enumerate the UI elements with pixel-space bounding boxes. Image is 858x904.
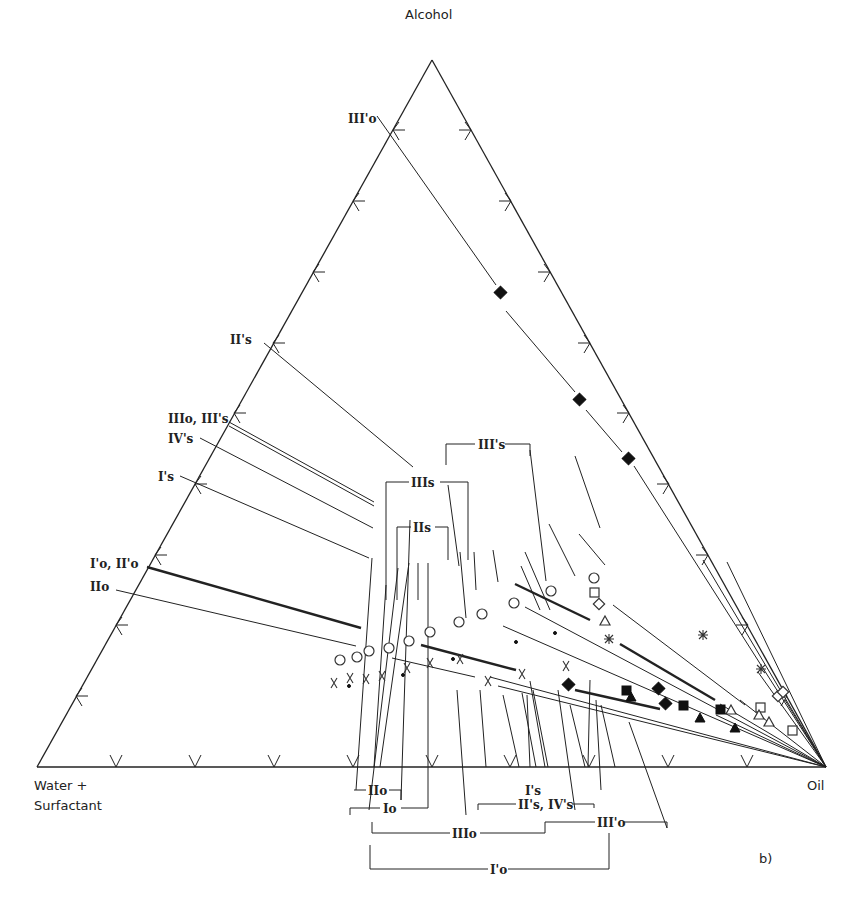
vertex-label-water-line1: Water +: [34, 777, 87, 795]
label-III-prime-o-left: III'o: [348, 112, 377, 126]
label-III-o: IIIo: [452, 827, 477, 841]
panel-label: b): [759, 850, 772, 868]
label-II-o-left: IIo: [90, 580, 109, 594]
markers-open-circle: [335, 573, 599, 665]
vertex-label-oil: Oil: [807, 777, 824, 795]
label-I-o: Io: [383, 802, 397, 816]
markers-dot: [348, 632, 557, 688]
tie-lines-left: [116, 116, 826, 767]
label-I-prime-s-left: I's: [158, 470, 174, 484]
ternary-phase-diagram: III's IIIs IIs IIo Io I's II's, IV's III…: [0, 0, 858, 904]
label-III-s: IIIs: [411, 476, 435, 490]
vertex-label-water-line2: Surfactant: [34, 797, 102, 815]
vertex-label-alcohol: Alcohol: [405, 6, 452, 24]
label-I-prime-s: I's: [525, 784, 541, 798]
label-II-prime-s-left: II's: [230, 333, 252, 347]
label-I-prime-o: I'o: [490, 863, 507, 877]
tie-lines-vertical: [356, 450, 667, 828]
markers-asterisk: [604, 630, 766, 674]
markers-filled-diamond: [494, 286, 672, 710]
label-II-prime-s-IV-prime-s: II's, IV's: [518, 798, 574, 812]
label-II-o: IIo: [368, 784, 387, 798]
label-IIIo-III-prime-s-left: IIIo, III's: [168, 412, 229, 426]
label-III-prime-s: III's: [478, 438, 506, 452]
label-IV-prime-s-left: IV's: [168, 432, 194, 446]
markers-open-square: [590, 588, 797, 735]
left-line-labels: III'o II's IIIo, III's IV's I's I'o, II'…: [90, 112, 377, 594]
label-I-prime-o-II-prime-o-left: I'o, II'o: [90, 557, 139, 571]
label-III-prime-o: III'o: [597, 816, 626, 830]
label-II-s: IIs: [413, 521, 431, 535]
